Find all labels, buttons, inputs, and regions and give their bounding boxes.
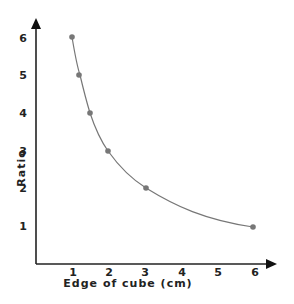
- ratio-curve: [72, 37, 253, 227]
- x-tick: 5: [214, 266, 222, 279]
- data-point: [143, 185, 149, 191]
- y-tick: 4: [19, 107, 27, 120]
- y-tick: 1: [19, 220, 27, 233]
- chart: 1 2 3 4 5 6 1 2 3 4 5 6 Edge of cube (cm…: [0, 0, 294, 304]
- y-tick: 5: [19, 69, 27, 82]
- x-tick: 6: [251, 266, 259, 279]
- y-axis-arrow-icon: [31, 18, 41, 29]
- data-point: [250, 224, 256, 230]
- data-point: [105, 148, 111, 154]
- x-axis-label: Edge of cube (cm): [63, 277, 192, 290]
- data-point: [69, 34, 75, 40]
- data-point: [76, 72, 82, 78]
- data-point: [87, 110, 93, 116]
- y-axis-label: Ratio: [15, 149, 28, 186]
- y-tick-labels: 1 2 3 4 5 6: [19, 32, 27, 233]
- x-axis-arrow-icon: [266, 259, 277, 269]
- y-tick: 6: [19, 32, 27, 45]
